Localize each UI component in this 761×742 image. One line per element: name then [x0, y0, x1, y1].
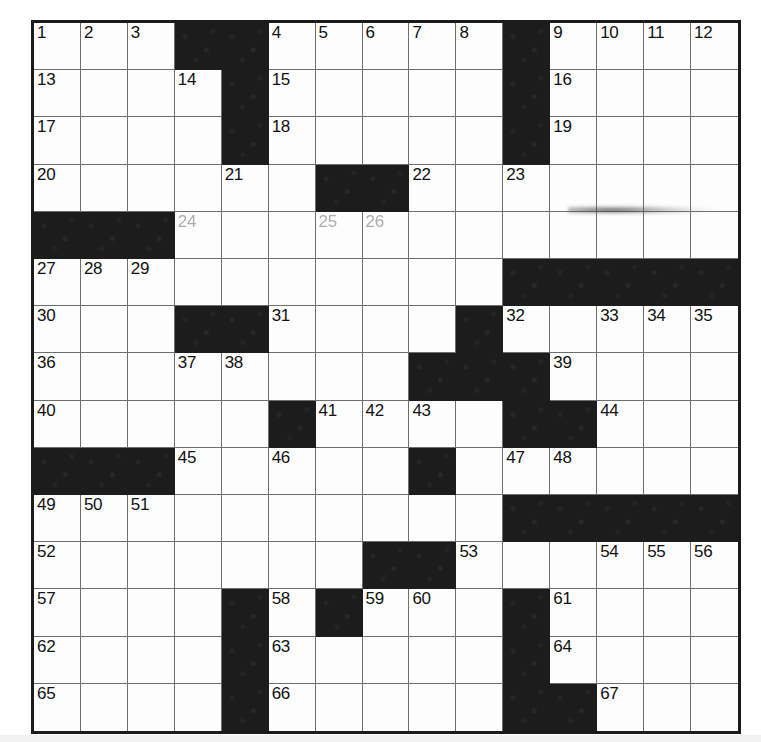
letter-cell[interactable] — [691, 353, 738, 400]
letter-cell[interactable] — [456, 212, 503, 259]
letter-cell[interactable] — [644, 212, 691, 259]
letter-cell[interactable]: 60 — [409, 589, 456, 636]
letter-cell[interactable] — [128, 70, 175, 117]
letter-cell[interactable]: 29 — [128, 259, 175, 306]
letter-cell[interactable] — [175, 401, 222, 448]
letter-cell[interactable]: 40 — [34, 401, 81, 448]
letter-cell[interactable] — [597, 165, 644, 212]
letter-cell[interactable]: 50 — [81, 495, 128, 542]
letter-cell[interactable]: 19 — [550, 117, 597, 164]
letter-cell[interactable] — [175, 589, 222, 636]
letter-cell[interactable] — [81, 401, 128, 448]
letter-cell[interactable] — [269, 165, 316, 212]
letter-cell[interactable] — [691, 117, 738, 164]
letter-cell[interactable] — [222, 448, 269, 495]
letter-cell[interactable]: 37 — [175, 353, 222, 400]
letter-cell[interactable] — [456, 70, 503, 117]
letter-cell[interactable] — [456, 165, 503, 212]
letter-cell[interactable]: 36 — [34, 353, 81, 400]
letter-cell[interactable] — [128, 117, 175, 164]
letter-cell[interactable] — [644, 165, 691, 212]
letter-cell[interactable] — [409, 684, 456, 731]
letter-cell[interactable]: 35 — [691, 306, 738, 353]
letter-cell[interactable] — [456, 401, 503, 448]
letter-cell[interactable] — [550, 306, 597, 353]
letter-cell[interactable] — [363, 306, 410, 353]
letter-cell[interactable]: 46 — [269, 448, 316, 495]
letter-cell[interactable] — [175, 495, 222, 542]
letter-cell[interactable]: 23 — [503, 165, 550, 212]
letter-cell[interactable]: 34 — [644, 306, 691, 353]
letter-cell[interactable]: 66 — [269, 684, 316, 731]
letter-cell[interactable] — [363, 353, 410, 400]
letter-cell[interactable] — [409, 117, 456, 164]
letter-cell[interactable] — [128, 589, 175, 636]
letter-cell[interactable] — [550, 165, 597, 212]
letter-cell[interactable] — [269, 495, 316, 542]
letter-cell[interactable] — [456, 495, 503, 542]
letter-cell[interactable] — [81, 637, 128, 684]
letter-cell[interactable]: 58 — [269, 589, 316, 636]
letter-cell[interactable]: 62 — [34, 637, 81, 684]
letter-cell[interactable]: 33 — [597, 306, 644, 353]
letter-cell[interactable] — [269, 353, 316, 400]
letter-cell[interactable]: 32 — [503, 306, 550, 353]
letter-cell[interactable] — [128, 684, 175, 731]
letter-cell[interactable]: 14 — [175, 70, 222, 117]
letter-cell[interactable] — [222, 212, 269, 259]
letter-cell[interactable]: 1 — [34, 23, 81, 70]
letter-cell[interactable]: 10 — [597, 23, 644, 70]
letter-cell[interactable]: 44 — [597, 401, 644, 448]
letter-cell[interactable]: 9 — [550, 23, 597, 70]
letter-cell[interactable] — [691, 684, 738, 731]
letter-cell[interactable]: 6 — [363, 23, 410, 70]
letter-cell[interactable] — [409, 70, 456, 117]
letter-cell[interactable] — [316, 306, 363, 353]
letter-cell[interactable] — [128, 542, 175, 589]
letter-cell[interactable]: 8 — [456, 23, 503, 70]
letter-cell[interactable] — [691, 401, 738, 448]
letter-cell[interactable]: 38 — [222, 353, 269, 400]
letter-cell[interactable] — [316, 495, 363, 542]
letter-cell[interactable]: 16 — [550, 70, 597, 117]
letter-cell[interactable] — [175, 165, 222, 212]
letter-cell[interactable]: 20 — [34, 165, 81, 212]
letter-cell[interactable]: 26 — [363, 212, 410, 259]
letter-cell[interactable]: 4 — [269, 23, 316, 70]
letter-cell[interactable] — [644, 70, 691, 117]
letter-cell[interactable]: 12 — [691, 23, 738, 70]
letter-cell[interactable] — [644, 637, 691, 684]
letter-cell[interactable] — [81, 542, 128, 589]
letter-cell[interactable] — [644, 589, 691, 636]
letter-cell[interactable] — [363, 448, 410, 495]
letter-cell[interactable]: 15 — [269, 70, 316, 117]
letter-cell[interactable] — [503, 542, 550, 589]
letter-cell[interactable] — [456, 259, 503, 306]
letter-cell[interactable]: 5 — [316, 23, 363, 70]
letter-cell[interactable] — [128, 401, 175, 448]
letter-cell[interactable]: 47 — [503, 448, 550, 495]
letter-cell[interactable]: 17 — [34, 117, 81, 164]
letter-cell[interactable] — [81, 117, 128, 164]
letter-cell[interactable]: 22 — [409, 165, 456, 212]
letter-cell[interactable]: 53 — [456, 542, 503, 589]
letter-cell[interactable] — [81, 70, 128, 117]
letter-cell[interactable] — [456, 117, 503, 164]
letter-cell[interactable]: 57 — [34, 589, 81, 636]
letter-cell[interactable]: 65 — [34, 684, 81, 731]
letter-cell[interactable] — [597, 70, 644, 117]
letter-cell[interactable] — [456, 637, 503, 684]
letter-cell[interactable] — [316, 542, 363, 589]
crossword-grid[interactable]: 1234567891011121314151617181920212223242… — [31, 20, 741, 734]
letter-cell[interactable] — [269, 212, 316, 259]
letter-cell[interactable] — [409, 212, 456, 259]
letter-cell[interactable] — [81, 353, 128, 400]
letter-cell[interactable] — [81, 306, 128, 353]
letter-cell[interactable]: 30 — [34, 306, 81, 353]
letter-cell[interactable] — [644, 684, 691, 731]
letter-cell[interactable] — [363, 637, 410, 684]
letter-cell[interactable] — [81, 165, 128, 212]
letter-cell[interactable] — [175, 117, 222, 164]
letter-cell[interactable] — [691, 165, 738, 212]
letter-cell[interactable] — [81, 684, 128, 731]
